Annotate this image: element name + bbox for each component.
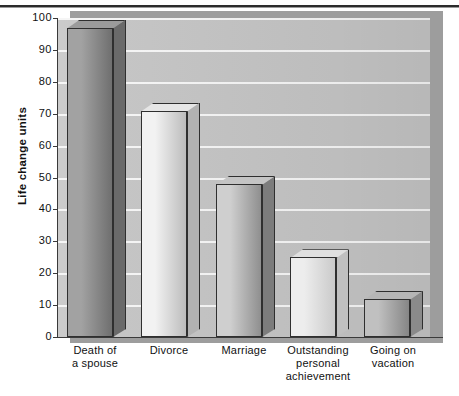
bar-side-face — [113, 20, 126, 337]
y-axis-tick-mark — [53, 114, 57, 115]
x-axis-category-label-line: achievement — [273, 370, 363, 383]
x-axis-category-label-line: Going on — [348, 344, 438, 357]
y-axis-tick-label: 50 — [4, 171, 52, 183]
y-axis-title: Life change units — [16, 86, 28, 226]
bar-front-face — [216, 184, 262, 337]
y-axis-tick-label: 40 — [4, 202, 52, 214]
y-axis-tick-label: 10 — [4, 298, 52, 310]
top-divider-rule-secondary — [0, 7, 459, 8]
bar — [216, 176, 275, 337]
y-axis-tick-mark — [53, 337, 57, 338]
y-axis-tick-label: 70 — [4, 107, 52, 119]
y-axis-tick-label: 20 — [4, 266, 52, 278]
bar-front-face — [364, 299, 410, 337]
y-axis-tick-mark — [53, 178, 57, 179]
y-axis-tick-mark — [53, 305, 57, 306]
y-axis-tick-label: 90 — [4, 43, 52, 55]
bar-chart-figure: 1009080706050403020100 Life change units… — [0, 0, 459, 396]
y-axis-tick-label: 60 — [4, 139, 52, 151]
x-axis-category-label-line: vacation — [348, 357, 438, 370]
y-axis-tick-label: 80 — [4, 75, 52, 87]
y-axis-tick-mark — [53, 273, 57, 274]
x-axis-line — [57, 337, 443, 338]
y-axis-tick-label: 100 — [4, 11, 52, 23]
bar-front-face — [290, 257, 336, 337]
y-axis-tick-label: 30 — [4, 234, 52, 246]
y-axis-tick-mark — [53, 82, 57, 83]
y-axis-tick-mark — [53, 209, 57, 210]
y-axis-tick-mark — [53, 146, 57, 147]
bar — [364, 291, 423, 337]
bar — [141, 103, 200, 337]
y-axis-tick-label: 0 — [4, 330, 52, 342]
bar-side-face — [187, 103, 200, 337]
y-axis-tick-mark — [53, 241, 57, 242]
y-axis-tick-mark — [53, 50, 57, 51]
bar-front-face — [141, 111, 187, 337]
y-axis-tick-mark — [53, 18, 57, 19]
bar-side-face — [336, 249, 349, 337]
bar-side-face — [262, 176, 275, 337]
x-axis-category-label-line: a spouse — [50, 357, 140, 370]
bar — [290, 249, 349, 337]
x-axis-category-label: Going onvacation — [348, 344, 438, 370]
y-axis-line — [57, 18, 58, 338]
bar — [67, 20, 126, 337]
bar-front-face — [67, 28, 113, 337]
